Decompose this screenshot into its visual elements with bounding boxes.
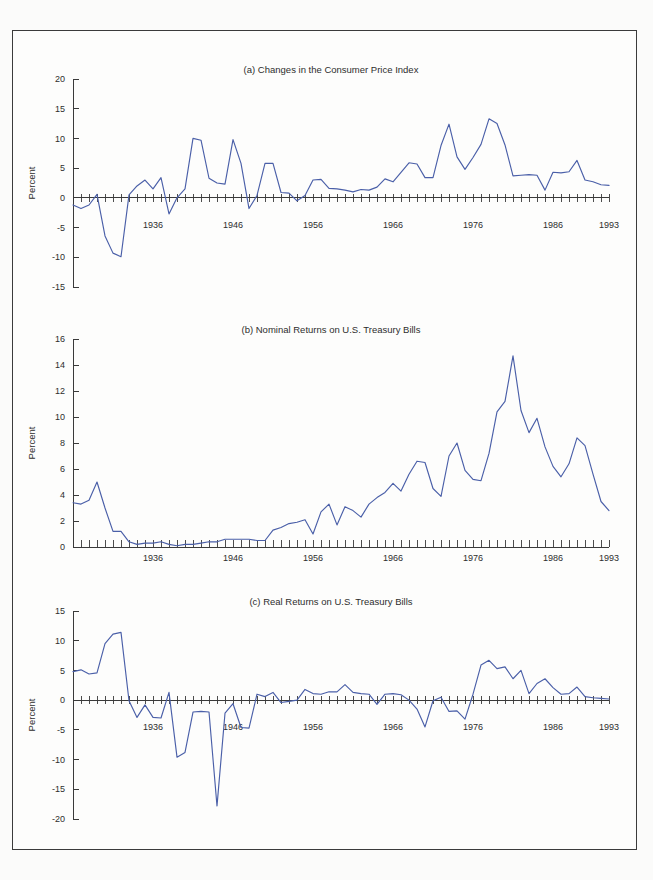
figure-frame: -15-10-505101520Percent19361946195619661…: [12, 30, 637, 850]
x-tick-label-c-5: 1986: [543, 722, 563, 732]
y-tick-label-a-2: -5: [57, 223, 65, 233]
y-tick-label-c-3: -5: [57, 725, 65, 735]
y-tick-label-b-5: 10: [55, 412, 65, 422]
x-tick-label-b-0: 1936: [143, 553, 163, 563]
y-tick-label-c-0: -20: [52, 814, 65, 824]
x-tick-label-c-2: 1956: [303, 722, 323, 732]
y-tick-label-a-1: -10: [52, 252, 65, 262]
chart-svg-b: 0246810121416Percent19361946195619661976…: [13, 309, 638, 571]
x-tick-label-b-5: 1986: [543, 553, 563, 563]
y-tick-label-a-5: 10: [55, 134, 65, 144]
y-tick-label-a-0: -15: [52, 282, 65, 292]
x-tick-label-b-3: 1966: [383, 553, 403, 563]
y-tick-label-c-6: 10: [55, 636, 65, 646]
x-tick-label-a-2: 1956: [303, 220, 323, 230]
y-axis-name-a: Percent: [26, 166, 37, 199]
data-series-a: [73, 119, 609, 257]
y-tick-label-a-6: 15: [55, 104, 65, 114]
chart-svg-c: -20-15-10-5051015Percent1936194619561966…: [13, 571, 638, 843]
y-tick-label-b-7: 14: [55, 360, 65, 370]
x-tick-label-a-1: 1946: [223, 220, 243, 230]
y-tick-label-b-3: 6: [60, 464, 65, 474]
data-series-b: [73, 356, 609, 546]
chart-svg-a: -15-10-505101520Percent19361946195619661…: [13, 37, 638, 309]
y-tick-label-b-1: 2: [60, 516, 65, 526]
y-tick-label-c-2: -10: [52, 755, 65, 765]
chart-panel-c: -20-15-10-5051015Percent1936194619561966…: [13, 571, 638, 843]
y-tick-label-c-4: 0: [60, 695, 65, 705]
y-tick-label-b-4: 8: [60, 438, 65, 448]
x-tick-label-a-5: 1986: [543, 220, 563, 230]
y-tick-label-a-7: 20: [55, 74, 65, 84]
chart-title-a: (a) Changes in the Consumer Price Index: [244, 64, 419, 75]
x-tick-label-b-6: 1993: [599, 553, 619, 563]
x-tick-label-b-4: 1976: [463, 553, 483, 563]
y-tick-label-c-5: 5: [60, 666, 65, 676]
chart-panel-a: -15-10-505101520Percent19361946195619661…: [13, 37, 638, 309]
x-tick-label-c-4: 1976: [463, 722, 483, 732]
y-tick-label-b-2: 4: [60, 490, 65, 500]
x-tick-label-c-3: 1966: [383, 722, 403, 732]
x-tick-label-a-0: 1936: [143, 220, 163, 230]
y-axis-name-c: Percent: [26, 698, 37, 731]
x-tick-label-a-4: 1976: [463, 220, 483, 230]
y-tick-label-b-6: 12: [55, 386, 65, 396]
x-tick-label-c-6: 1993: [599, 722, 619, 732]
x-tick-label-a-6: 1993: [599, 220, 619, 230]
x-tick-label-b-2: 1956: [303, 553, 323, 563]
y-tick-label-c-1: -15: [52, 784, 65, 794]
y-tick-label-a-4: 5: [60, 163, 65, 173]
x-tick-label-a-3: 1966: [383, 220, 403, 230]
y-axis-name-b: Percent: [26, 426, 37, 459]
chart-panel-b: 0246810121416Percent19361946195619661976…: [13, 309, 638, 571]
figure-page: -15-10-505101520Percent19361946195619661…: [0, 0, 653, 880]
y-tick-label-b-0: 0: [60, 542, 65, 552]
chart-title-b: (b) Nominal Returns on U.S. Treasury Bil…: [242, 324, 421, 335]
y-tick-label-b-8: 16: [55, 334, 65, 344]
data-series-c: [73, 632, 609, 806]
x-tick-label-c-0: 1936: [143, 722, 163, 732]
x-tick-label-b-1: 1946: [223, 553, 243, 563]
chart-title-c: (c) Real Returns on U.S. Treasury Bills: [249, 596, 412, 607]
y-tick-label-a-3: 0: [60, 193, 65, 203]
y-tick-label-c-7: 15: [55, 606, 65, 616]
